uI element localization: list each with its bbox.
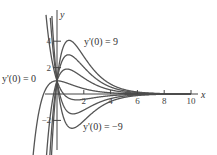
y-tick-label-1: 2 xyxy=(47,63,52,73)
y-axis-label: y xyxy=(59,9,65,20)
annotation-zero: y'(0) = 0 xyxy=(2,73,36,85)
x-tick-label-6: 6 xyxy=(135,96,140,106)
x-tick-label-2: 2 xyxy=(82,96,87,106)
x-tick-label-4: 4 xyxy=(108,96,113,106)
annotation-top: y'(0) = 9 xyxy=(84,36,118,48)
x-tick-label-10: 10 xyxy=(187,96,197,106)
series-line-6 xyxy=(52,16,191,128)
x-tick-label-8: 8 xyxy=(162,96,167,106)
annotation-bottom: y'(0) = −9 xyxy=(83,121,123,133)
y-tick-label-0: 4 xyxy=(47,36,52,46)
solution-curves-chart: 24681042−2 x y y'(0) = 9 y'(0) = 0 y'(0)… xyxy=(0,0,217,155)
ticks-group: 24681042−2 xyxy=(41,36,196,125)
x-axis-label: x xyxy=(200,89,206,100)
y-tick-label-2: −2 xyxy=(41,115,51,125)
